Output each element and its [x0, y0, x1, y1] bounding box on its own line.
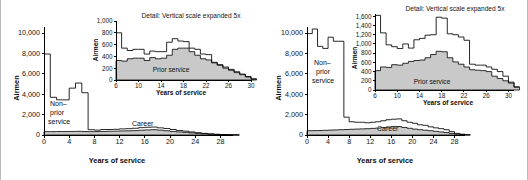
x-tick-label: 8 — [92, 137, 96, 146]
y-tick-label: 6,000 — [285, 69, 303, 78]
x-tick-label: 4 — [326, 137, 330, 146]
x-tick-label: 26 — [483, 92, 491, 99]
y-tick-label: 800 — [102, 29, 113, 36]
y-tick-label: 2,000 — [22, 110, 40, 119]
non-prior-service-label-line1: Non– — [314, 59, 331, 66]
inset-title: Detail: Vertical scale expanded 5x — [142, 12, 242, 20]
y-tick-label: 400 — [102, 53, 113, 60]
x-tick-label: 6 — [373, 92, 377, 99]
y-tick-label: 10,000 — [18, 28, 40, 37]
y-axis-title: Airmen — [12, 75, 21, 101]
non-prior-service-label-line3: service — [312, 77, 334, 84]
x-tick-label: 30 — [247, 82, 255, 89]
x-tick-label: 22 — [460, 92, 468, 99]
y-tick-label: 8,000 — [22, 49, 40, 58]
x-tick-label: 28 — [216, 137, 224, 146]
x-tick-label: 12 — [116, 137, 124, 146]
inset-x-axis-title: Years of service — [156, 89, 207, 96]
x-tick-label: 10 — [135, 82, 143, 89]
x-tick-label: 24 — [191, 137, 199, 146]
x-tick-label: 22 — [202, 82, 210, 89]
y-tick-label: 4,000 — [285, 90, 303, 99]
y-tick-label: 600 — [361, 59, 372, 66]
x-tick-label: 18 — [180, 82, 188, 89]
panel-right-svg: 02,0004,0006,0008,00010,0000481216202428… — [265, 0, 528, 180]
x-tick-label: 24 — [429, 137, 437, 146]
x-tick-label: 16 — [387, 137, 395, 146]
y-tick-label: 6,000 — [22, 69, 40, 78]
prior-service-label: Prior service — [153, 66, 190, 73]
y-tick-label: 1,400 — [356, 22, 372, 29]
x-tick-label: 30 — [505, 92, 513, 99]
y-tick-label: 1,000 — [356, 40, 372, 47]
x-tick-label: 28 — [450, 137, 458, 146]
x-tick-label: 4 — [67, 137, 71, 146]
panel-right-inset-chart: Detail: Vertical scale expanded 5x 02004… — [351, 5, 526, 106]
x-tick-label: 26 — [225, 82, 233, 89]
y-axis-title: Airmen — [274, 75, 283, 101]
y-tick-label: 200 — [361, 77, 372, 84]
y-tick-label: 0 — [299, 130, 303, 139]
career-label: Career — [132, 120, 154, 127]
x-axis-title: Years of service — [357, 156, 413, 165]
y-tick-label: 4,000 — [22, 90, 40, 99]
y-tick-label: 200 — [102, 65, 113, 72]
y-tick-label: 1,000 — [97, 17, 113, 24]
chart-panel-left: 02,0004,0006,0008,00010,0000481216202428… — [1, 0, 265, 180]
figure-frame: 02,0004,0006,0008,00010,0000481216202428… — [0, 0, 528, 180]
x-tick-label: 20 — [166, 137, 174, 146]
non-prior-service-label-line2: prior — [316, 68, 331, 76]
x-tick-label: 8 — [347, 137, 351, 146]
chart-panel-right: 02,0004,0006,0008,00010,0000481216202428… — [265, 0, 528, 180]
y-tick-label: 400 — [361, 68, 372, 75]
y-tick-label: 1,600 — [356, 13, 372, 20]
x-tick-label: 0 — [305, 137, 309, 146]
x-axis-title: Years of service — [89, 156, 145, 165]
inset-x-axis-title: Years of service — [423, 99, 474, 106]
x-tick-label: 16 — [141, 137, 149, 146]
panel-left-svg: 02,0004,0006,0008,00010,0000481216202428… — [1, 0, 265, 180]
x-tick-label: 14 — [416, 92, 424, 99]
x-tick-label: 10 — [394, 92, 402, 99]
y-tick-label: 2,000 — [285, 110, 303, 119]
non-prior-service-label-line3: service — [48, 118, 70, 125]
x-tick-label: 18 — [438, 92, 446, 99]
y-tick-label: 600 — [102, 41, 113, 48]
inset-y-axis-title: Airmen — [92, 39, 99, 62]
y-tick-label: 8,000 — [285, 49, 303, 58]
non-prior-service-label-line2: prior — [50, 109, 65, 117]
y-tick-label: 800 — [361, 49, 372, 56]
y-tick-label: 0 — [109, 76, 113, 83]
x-tick-label: 14 — [157, 82, 165, 89]
inset-y-axis-title: Airmen — [351, 47, 358, 70]
x-tick-label: 12 — [366, 137, 374, 146]
y-tick-label: 10,000 — [281, 28, 303, 37]
career-label: Career — [377, 125, 399, 132]
x-tick-label: 20 — [408, 137, 416, 146]
panel-left-inset-chart: Detail: Vertical scale expanded 5x 02004… — [92, 12, 262, 96]
inset-title: Detail: Vertical scale expanded 5x — [406, 5, 506, 13]
non-prior-service-label-line1: Non– — [50, 100, 67, 107]
x-tick-label: 6 — [114, 82, 118, 89]
x-tick-label: 0 — [42, 137, 46, 146]
prior-service-label: Prior service — [414, 78, 451, 85]
y-tick-label: 0 — [36, 130, 40, 139]
y-tick-label: 0 — [368, 86, 372, 93]
y-tick-label: 1,200 — [356, 31, 372, 38]
